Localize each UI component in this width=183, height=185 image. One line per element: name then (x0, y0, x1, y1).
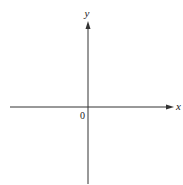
y-axis-arrow-icon (86, 21, 91, 29)
origin-label: 0 (80, 110, 85, 121)
coordinate-axes-diagram: y x 0 (0, 0, 183, 185)
x-axis-arrow-icon (166, 105, 174, 110)
y-axis-label: y (84, 7, 90, 19)
x-axis-label: x (175, 100, 181, 112)
